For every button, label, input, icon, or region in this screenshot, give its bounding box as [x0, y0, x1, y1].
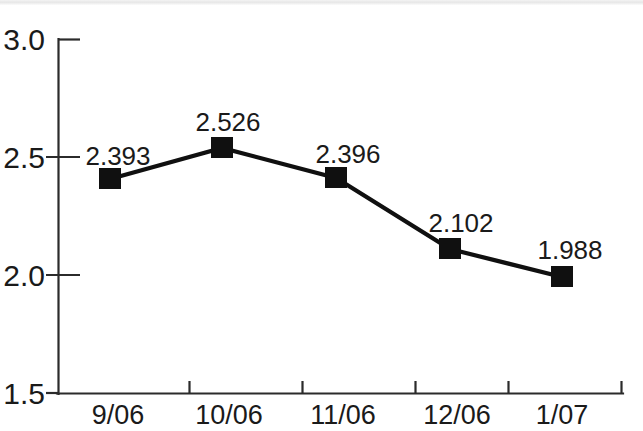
data-label-3: 2.396 — [315, 139, 380, 169]
y-axis-label-2-0: 2.0 — [3, 259, 45, 292]
data-label-4: 2.102 — [428, 208, 493, 238]
y-axis-label-2-5: 2.5 — [3, 141, 45, 174]
y-axis-label-3-0: 3.0 — [3, 23, 45, 56]
data-marker-5[interactable] — [551, 266, 573, 287]
data-marker-4[interactable] — [439, 238, 461, 259]
chart-canvas: 3.0 2.5 2.0 1.5 9/06 10/06 11/06 12/06 1… — [0, 0, 643, 431]
x-axis-label-4: 12/06 — [423, 400, 491, 430]
x-axis-label-5: 1/07 — [536, 400, 589, 430]
data-marker-3[interactable] — [325, 167, 347, 188]
data-marker-2[interactable] — [211, 137, 233, 158]
x-axis-label-1: 9/06 — [92, 400, 145, 430]
data-marker-1[interactable] — [99, 168, 121, 189]
x-axis-label-3: 11/06 — [310, 400, 376, 430]
y-axis-label-1-5: 1.5 — [3, 377, 45, 410]
x-axis-label-2: 10/06 — [195, 400, 263, 430]
data-label-1: 2.393 — [85, 141, 150, 171]
line-chart: 3.0 2.5 2.0 1.5 9/06 10/06 11/06 12/06 1… — [0, 0, 643, 431]
data-label-2: 2.526 — [195, 107, 260, 137]
data-label-5: 1.988 — [537, 235, 602, 265]
